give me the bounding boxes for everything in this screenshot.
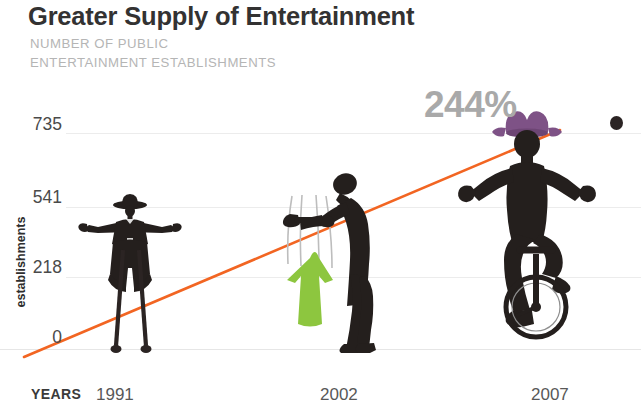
infographic-chart: Greater Supply of Entertainment NUMBER O… [0, 0, 641, 415]
puppet-strings-icon [288, 195, 332, 268]
growth-callout: 244% [424, 84, 517, 126]
unicycle-juggler-icon [444, 104, 606, 354]
puppeteer-icon [272, 168, 400, 353]
ytick-0: 0 [6, 327, 62, 348]
xtick-2002: 2002 [320, 385, 358, 405]
xtick-1991: 1991 [96, 385, 134, 405]
stilt-walker-icon [76, 192, 184, 360]
xtick-2007: 2007 [531, 385, 569, 405]
ytick-735: 735 [6, 114, 62, 135]
y-axis-title: establishments [14, 197, 28, 327]
juggling-ball-icon [610, 116, 623, 130]
marionette-puppet-icon [287, 252, 333, 327]
plot-area [0, 0, 641, 415]
x-axis-title: YEARS [31, 386, 81, 402]
